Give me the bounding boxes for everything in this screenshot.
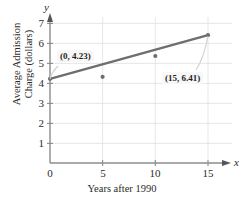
x-tick-label-10: 10 — [146, 168, 164, 179]
x-axis-letter: x — [234, 156, 239, 168]
x-tick-label-0: 0 — [41, 168, 59, 179]
y-axis — [47, 13, 53, 163]
data-point — [101, 75, 105, 79]
annotation-label-left: (0, 4.23) — [57, 50, 94, 62]
y-axis-title-line-1: Average Admission — [11, 0, 23, 134]
x-axis — [50, 160, 231, 166]
annotation-label-right: (15, 6.41) — [162, 72, 203, 84]
y-axis-title: Average Admission Charge (dollars) — [11, 0, 35, 134]
horizontal-gridlines — [50, 23, 232, 143]
x-axis-arrow-icon — [222, 160, 231, 166]
y-axis-letter: y — [44, 1, 49, 13]
x-tick-label-15: 15 — [199, 168, 217, 179]
leader-line-right — [196, 36, 208, 70]
x-axis-title: Years after 1990 — [0, 183, 244, 194]
y-tick-label-1: 1 — [30, 138, 44, 149]
y-axis-arrow-icon — [47, 13, 53, 22]
chart-figure: 7 6 5 4 3 2 1 0 5 10 15 y x Average Admi… — [0, 0, 244, 202]
x-tick-label-5: 5 — [94, 168, 112, 179]
data-point — [153, 54, 157, 58]
y-axis-title-line-2: Charge (dollars) — [23, 0, 35, 134]
